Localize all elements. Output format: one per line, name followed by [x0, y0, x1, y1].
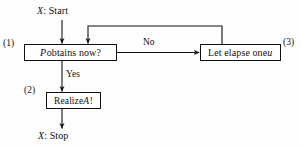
stop-terminal-text: Stop [50, 130, 69, 141]
elapse-box-text: Let elapse one [208, 47, 267, 58]
edge-elapse-feedback-loop [88, 26, 222, 45]
realize-box-bang: ! [90, 96, 93, 106]
step-number-3: (3) [283, 38, 294, 48]
start-terminal-label: X: Start [37, 6, 68, 16]
start-terminal-text: Start [49, 5, 68, 16]
stop-terminal-label: X: Stop [38, 131, 68, 141]
realize-box-verb: Realize [54, 96, 83, 106]
decision-box-label: P obtains now? [24, 44, 117, 61]
flowchart-canvas [0, 0, 301, 147]
elapse-box-label: Let elapse one u [200, 44, 281, 61]
edge-label-yes: Yes [66, 70, 80, 80]
edge-label-no: No [143, 38, 155, 48]
flowchart-figure: X: Start X: Stop P obtains now? Realize … [0, 0, 301, 147]
decision-box-subject: P [40, 47, 47, 58]
decision-box-question: obtains now? [47, 47, 101, 58]
elapse-box-unit: u [267, 47, 273, 58]
step-number-2: (2) [24, 86, 35, 96]
realize-box-label: Realize A! [46, 92, 101, 109]
step-number-1: (1) [3, 39, 14, 49]
